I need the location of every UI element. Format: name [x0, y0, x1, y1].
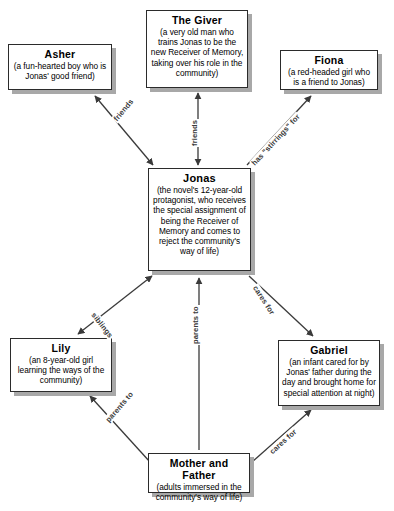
node-lily-title: Lily: [14, 342, 108, 354]
node-the-giver[interactable]: The Giver (a very old man who trains Jon…: [146, 10, 248, 88]
node-the-giver-description: (a very old man who trains Jonas to be t…: [150, 27, 244, 78]
edge-jonas-lily: [78, 276, 152, 334]
edge-label-jonas-gabriel: cares for: [250, 283, 277, 317]
node-mother-and-father-description: (adults immersed in the community's way …: [152, 482, 246, 502]
node-asher[interactable]: Asher (a fun-hearted boy who is Jonas' g…: [8, 44, 112, 90]
node-jonas-description: (the novel's 12-year-old protagonist, wh…: [152, 185, 247, 256]
edge-label-jonas-asher: friends: [111, 97, 136, 124]
node-jonas[interactable]: Jonas (the novel's 12-year-old protagoni…: [148, 168, 251, 271]
node-gabriel-title: Gabriel: [282, 344, 376, 356]
node-asher-description: (a fun-hearted boy who is Jonas' good fr…: [12, 61, 108, 81]
node-the-giver-title: The Giver: [150, 14, 244, 26]
node-asher-title: Asher: [12, 48, 108, 60]
node-lily-description: (an 8-year-old girl learning the ways of…: [14, 355, 108, 386]
edge-label-parents-gabriel: cares for: [267, 427, 299, 457]
node-mother-and-father[interactable]: Mother and Father (adults immersed in th…: [148, 453, 250, 493]
edge-label-parents-jonas: parents to: [191, 305, 200, 345]
character-relationship-diagram: Asher (a fun-hearted boy who is Jonas' g…: [0, 0, 394, 511]
node-jonas-title: Jonas: [152, 172, 247, 184]
node-lily[interactable]: Lily (an 8-year-old girl learning the wa…: [10, 338, 112, 392]
edge-label-parents-lily: parents to: [103, 389, 136, 425]
node-fiona-title: Fiona: [284, 54, 374, 66]
node-gabriel-description: (an infant cared for by Jonas' father du…: [282, 357, 376, 398]
node-fiona[interactable]: Fiona (a red-headed girl who is a friend…: [280, 50, 378, 90]
node-gabriel[interactable]: Gabriel (an infant cared for by Jonas' f…: [278, 340, 380, 406]
edge-label-jonas-lily: siblings: [89, 310, 115, 340]
node-fiona-description: (a red-headed girl who is a friend to Jo…: [284, 67, 374, 87]
node-mother-and-father-title: Mother and Father: [152, 457, 246, 481]
edge-label-jonas-giver: friends: [190, 119, 199, 147]
edge-label-jonas-fiona: has "stirrings" for: [249, 112, 303, 169]
